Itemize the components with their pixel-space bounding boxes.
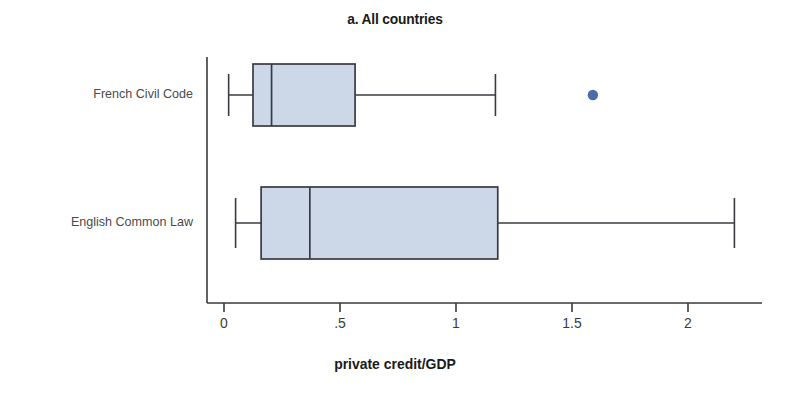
box-rect-0 xyxy=(253,64,355,126)
plot-canvas xyxy=(0,0,790,395)
boxplot-group-1 xyxy=(236,187,735,259)
box-rect-1 xyxy=(261,187,498,259)
boxplot-group-0 xyxy=(229,64,598,126)
boxplot-figure: a. All countries French Civil Code Engli… xyxy=(0,0,790,395)
outlier-point-0-0 xyxy=(588,90,598,100)
